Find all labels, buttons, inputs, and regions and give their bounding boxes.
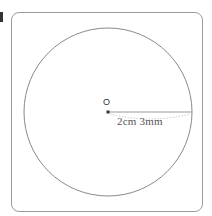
- radius-label: 2cm 3mm: [117, 115, 163, 127]
- circle-diagram: [0, 0, 212, 216]
- center-point: [107, 111, 110, 114]
- center-label: O: [103, 97, 110, 107]
